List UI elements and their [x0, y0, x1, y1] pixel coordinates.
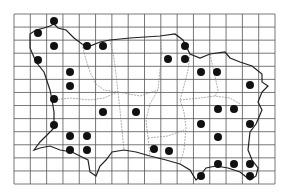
record-dot [181, 55, 189, 63]
record-dot [246, 120, 254, 128]
record-dot [214, 105, 222, 113]
record-dot [99, 108, 107, 116]
record-dot [230, 105, 238, 113]
record-dot [83, 146, 91, 154]
record-dot [50, 42, 58, 50]
record-dot [99, 42, 107, 50]
record-dot [50, 95, 58, 103]
record-dot [165, 147, 173, 155]
record-dot [50, 121, 58, 129]
record-dot [214, 133, 222, 141]
record-dot [213, 68, 221, 76]
record-dot [164, 55, 172, 63]
record-dot [66, 132, 74, 140]
record-dot [246, 81, 254, 89]
record-dot [132, 108, 140, 116]
record-dot [197, 68, 205, 76]
record-dot [34, 29, 42, 37]
record-dot [34, 56, 42, 64]
coastline [30, 24, 268, 180]
record-dot [214, 160, 222, 168]
record-dot [66, 68, 74, 76]
record-dot [66, 146, 74, 154]
record-dot [50, 17, 58, 25]
record-dot [197, 172, 205, 180]
record-dot [66, 82, 74, 90]
record-dot [230, 160, 238, 168]
record-dot [246, 160, 254, 168]
record-dot [83, 42, 91, 50]
record-dot [150, 145, 158, 153]
record-dot [181, 42, 189, 50]
record-dot [246, 172, 254, 180]
record-dot [197, 120, 205, 128]
record-dot [83, 132, 91, 140]
distribution-map [0, 0, 287, 192]
